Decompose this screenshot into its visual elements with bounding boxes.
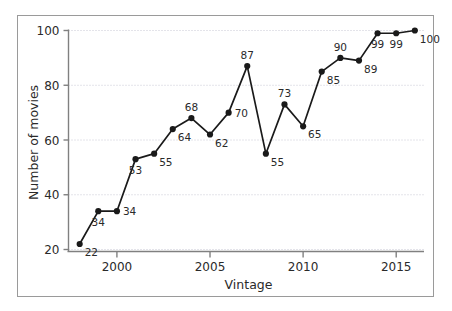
data-point-label: 90 — [334, 41, 347, 53]
data-point-marker — [77, 241, 83, 247]
data-point-marker — [356, 58, 362, 64]
data-point-marker — [188, 115, 194, 121]
data-point-label: 70 — [235, 107, 248, 119]
data-point-marker — [300, 123, 306, 129]
data-point-label: 89 — [364, 63, 377, 75]
line-chart-plot: 2040608010020002005201020152234345355646… — [0, 0, 452, 311]
data-point-marker — [95, 208, 101, 214]
data-point-label: 99 — [390, 38, 403, 50]
data-point-marker — [132, 156, 138, 162]
data-point-marker — [207, 131, 213, 137]
data-point-label: 73 — [278, 87, 291, 99]
x-axis-title: Vintage — [0, 277, 452, 292]
data-point-marker — [244, 63, 250, 69]
y-tick-label-40: 40 — [44, 188, 59, 202]
data-point-marker — [412, 27, 418, 33]
data-point-marker — [374, 30, 380, 36]
data-point-label: 55 — [159, 156, 172, 168]
data-point-label: 99 — [371, 38, 384, 50]
data-point-label: 85 — [327, 74, 340, 86]
data-point-marker — [263, 151, 269, 157]
data-point-marker — [281, 101, 287, 107]
y-tick-label-80: 80 — [44, 79, 59, 93]
chart-figure: 2040608010020002005201020152234345355646… — [0, 0, 452, 311]
x-tick-label-2000: 2000 — [102, 260, 133, 274]
data-point-label: 68 — [185, 101, 198, 113]
data-point-marker — [151, 151, 157, 157]
data-point-marker — [170, 126, 176, 132]
data-point-marker — [319, 68, 325, 74]
data-point-label: 64 — [178, 131, 192, 143]
y-tick-label-100: 100 — [37, 24, 60, 38]
x-tick-label-2005: 2005 — [195, 260, 226, 274]
data-point-label: 34 — [92, 216, 106, 228]
data-point-marker — [393, 30, 399, 36]
x-tick-label-2015: 2015 — [381, 260, 412, 274]
data-point-label: 100 — [420, 33, 440, 45]
data-point-label: 87 — [241, 49, 254, 61]
y-tick-label-60: 60 — [44, 134, 59, 148]
data-point-label: 62 — [215, 137, 228, 149]
data-point-marker — [226, 110, 232, 116]
y-axis-title: Number of movies — [26, 85, 41, 200]
data-point-label: 55 — [271, 156, 284, 168]
data-point-label: 22 — [85, 246, 98, 258]
x-tick-label-2010: 2010 — [288, 260, 319, 274]
data-point-label: 53 — [129, 164, 142, 176]
data-point-label: 34 — [123, 205, 137, 217]
data-point-marker — [114, 208, 120, 214]
data-point-label: 65 — [308, 128, 321, 140]
y-tick-label-20: 20 — [44, 243, 59, 257]
data-point-marker — [337, 55, 343, 61]
